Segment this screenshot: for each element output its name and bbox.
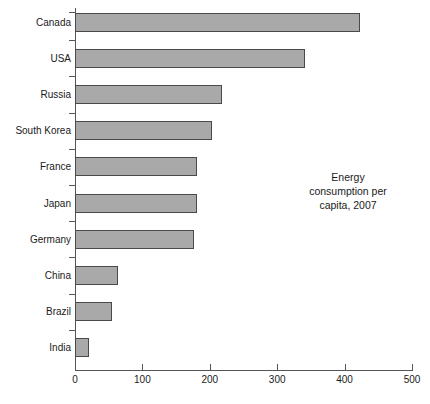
annotation-line: consumption per	[288, 184, 408, 198]
y-axis-tick	[69, 113, 75, 114]
annotation-line: capita, 2007	[288, 198, 408, 212]
x-axis-tick	[75, 364, 76, 371]
bar-canada	[75, 13, 360, 32]
y-axis-tick	[69, 185, 75, 186]
bar-india	[75, 338, 89, 357]
y-axis-tick	[69, 149, 75, 150]
category-label-france: France	[0, 161, 71, 173]
x-axis-tick	[210, 364, 211, 371]
x-axis-tick-label: 200	[190, 374, 230, 386]
bar-south-korea	[75, 121, 212, 140]
category-label-brazil: Brazil	[0, 306, 71, 318]
x-axis-tick-label: 0	[55, 374, 95, 386]
category-label-south-korea: South Korea	[0, 125, 71, 137]
bar-china	[75, 266, 118, 285]
x-axis-line	[75, 370, 412, 371]
y-axis-tick	[69, 257, 75, 258]
x-axis-tick	[345, 364, 346, 371]
bar-japan	[75, 194, 197, 213]
y-axis-tick	[69, 76, 75, 77]
y-axis-tick	[69, 40, 75, 41]
bar-russia	[75, 85, 222, 104]
x-axis-tick-label: 500	[392, 374, 430, 386]
category-label-china: China	[0, 270, 71, 282]
bar-france	[75, 157, 197, 176]
y-axis-tick	[69, 330, 75, 331]
bar-usa	[75, 49, 305, 68]
bar-germany	[75, 230, 194, 249]
x-axis-tick-label: 100	[122, 374, 162, 386]
x-axis-tick	[412, 364, 413, 371]
category-label-usa: USA	[0, 53, 71, 65]
bar-brazil	[75, 302, 112, 321]
bar-chart: 0100200300400500 CanadaUSARussiaSouth Ko…	[0, 0, 430, 404]
category-label-canada: Canada	[0, 17, 71, 29]
chart-annotation: Energyconsumption percapita, 2007	[288, 170, 408, 212]
x-axis-tick	[277, 364, 278, 371]
category-label-japan: Japan	[0, 198, 71, 210]
category-label-india: India	[0, 342, 71, 354]
x-axis-tick-label: 300	[257, 374, 297, 386]
y-axis-tick	[69, 221, 75, 222]
x-axis-tick	[142, 364, 143, 371]
y-axis-tick	[69, 294, 75, 295]
category-label-germany: Germany	[0, 234, 71, 246]
annotation-line: Energy	[288, 170, 408, 184]
category-label-russia: Russia	[0, 89, 71, 101]
x-axis-tick-label: 400	[325, 374, 365, 386]
